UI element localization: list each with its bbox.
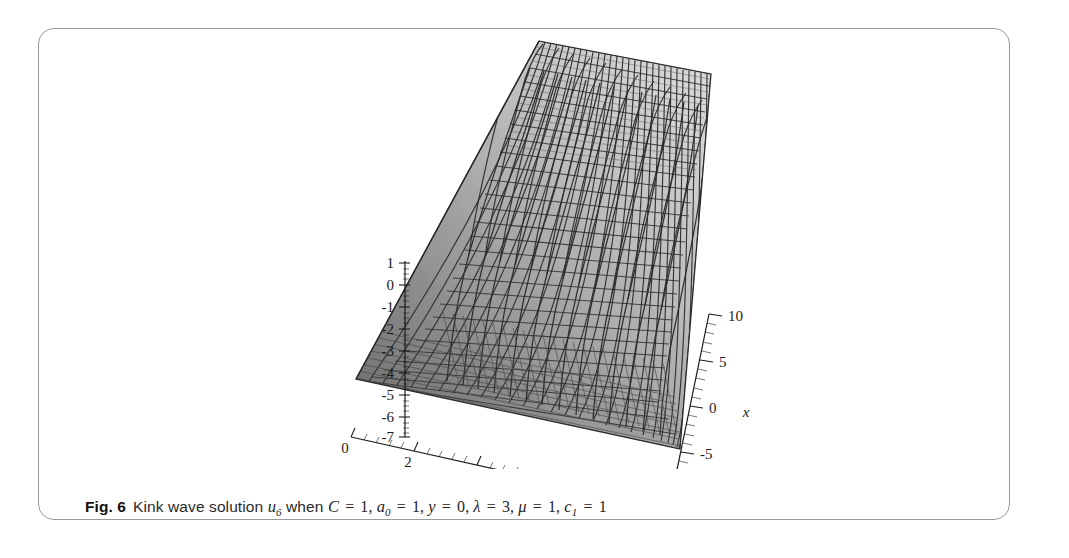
caption-param-symbol: μ bbox=[518, 497, 526, 516]
caption-param-symbol: a bbox=[377, 497, 385, 516]
caption-param-separator: , bbox=[368, 498, 376, 515]
caption-param-value: 0 bbox=[457, 498, 465, 515]
caption-param-symbol: λ bbox=[473, 497, 480, 516]
caption-param-equals: = bbox=[391, 498, 412, 515]
axis-x-tick-label-2: 0 bbox=[709, 400, 717, 416]
caption-when: when bbox=[282, 498, 328, 515]
axis-z-tick-label-5: -4 bbox=[382, 365, 395, 381]
caption-param-symbol: y bbox=[428, 497, 435, 516]
caption-param-subscript: 0 bbox=[385, 506, 391, 518]
caption-param-value: 1 bbox=[412, 498, 420, 515]
axis-x-label: x bbox=[742, 404, 750, 420]
surface-mesh bbox=[356, 41, 711, 449]
caption-parameter-list: C = 1, a0 = 1, y = 0, λ = 3, μ = 1, c1 =… bbox=[328, 498, 607, 515]
axis-z-tick-label-1: 0 bbox=[387, 277, 395, 293]
axis-t-tick-label-0: 0 bbox=[341, 440, 349, 456]
caption-param-value: 1 bbox=[599, 498, 607, 515]
axis-x-tick-label-0: 10 bbox=[728, 308, 743, 324]
figure-frame: 1 0 -1 -2 -3 -4 -5 -6 -7 bbox=[38, 28, 1010, 520]
axis-z-tick-label-4: -3 bbox=[382, 343, 395, 359]
caption-param-equals: = bbox=[577, 498, 598, 515]
caption-param-equals: = bbox=[481, 498, 502, 515]
caption-param-equals: = bbox=[527, 498, 548, 515]
axis-t-tick-label-1: 2 bbox=[404, 454, 412, 469]
caption-param-equals: = bbox=[436, 498, 457, 515]
caption-param-value: 1 bbox=[548, 498, 556, 515]
axis-x-tick-label-3: -5 bbox=[700, 446, 713, 462]
axis-t-line bbox=[351, 437, 665, 469]
axis-z-tick-label-8: -7 bbox=[382, 429, 395, 445]
figure-number-label: Fig. 6 bbox=[85, 498, 126, 515]
axis-t-tick-label-2: 4 bbox=[467, 468, 475, 469]
caption-prefix: Kink wave solution bbox=[133, 498, 268, 515]
axis-z-tick-label-3: -2 bbox=[382, 321, 395, 337]
caption-param-symbol: c bbox=[564, 497, 571, 516]
axis-z-tick-label-0: 1 bbox=[387, 255, 395, 271]
axis-z-tick-label-7: -6 bbox=[382, 409, 395, 425]
plot-area: 1 0 -1 -2 -3 -4 -5 -6 -7 bbox=[39, 29, 1011, 469]
axis-z-tick-label-2: -1 bbox=[382, 299, 395, 315]
axis-z-tick-label-6: -5 bbox=[382, 387, 395, 403]
caption-function-symbol: u bbox=[268, 497, 276, 516]
caption-param-value: 3 bbox=[502, 498, 510, 515]
figure-caption: Fig. 6Kink wave solution u6 when C = 1, … bbox=[85, 497, 985, 518]
axis-x-tick-label-1: 5 bbox=[719, 354, 727, 370]
surface-plot-3d: 1 0 -1 -2 -3 -4 -5 -6 -7 bbox=[39, 29, 1011, 469]
caption-param-equals: = bbox=[339, 498, 360, 515]
caption-param-symbol: C bbox=[328, 497, 339, 516]
